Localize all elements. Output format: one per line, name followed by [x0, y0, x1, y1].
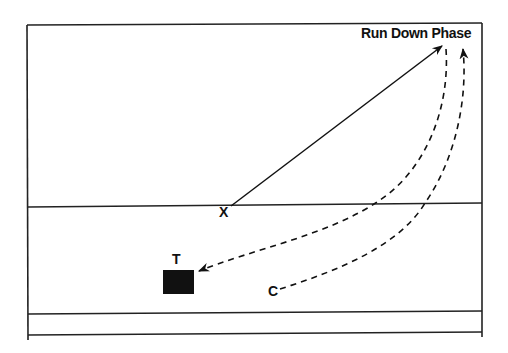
field-frame — [27, 23, 482, 340]
lower-field-line-2 — [28, 332, 482, 335]
dashed-arrow-c-path — [280, 49, 464, 289]
diagram-title: Run Down Phase — [361, 25, 472, 41]
lower-field-line-1 — [28, 311, 482, 314]
c-player-label: C — [268, 283, 278, 299]
upper-field-line — [28, 203, 482, 207]
run-down-phase-diagram: Run Down Phase X T C — [0, 0, 508, 353]
target-box-icon — [163, 270, 194, 294]
dashed-arrow-return-path — [199, 49, 446, 271]
x-player-label: X — [219, 204, 229, 220]
target-label: T — [172, 251, 181, 267]
solid-arrow-x-path — [231, 46, 442, 206]
